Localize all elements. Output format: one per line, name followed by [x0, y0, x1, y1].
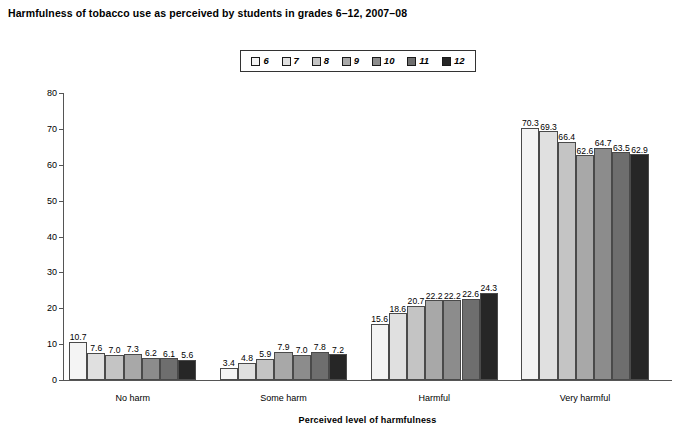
- y-tick-mark: [59, 308, 63, 309]
- bar-value-label: 20.7: [408, 297, 425, 306]
- bar-value-label: 10.7: [70, 333, 87, 342]
- bar-value-label: 7.0: [109, 346, 121, 355]
- bar-value-label: 22.6: [462, 290, 479, 299]
- legend-item-grade-10[interactable]: 10: [372, 56, 395, 66]
- bar-some-harm-grade-8[interactable]: 5.9: [256, 359, 274, 380]
- bar-very-harmful-grade-11[interactable]: 63.5: [612, 152, 630, 380]
- bar-value-label: 70.3: [522, 119, 539, 128]
- legend-item-grade-11[interactable]: 11: [407, 56, 429, 66]
- chart-legend: 6789101112: [240, 50, 476, 72]
- legend-label-grade-9: 9: [354, 56, 359, 66]
- bar-some-harm-grade-9[interactable]: 7.9: [274, 352, 292, 380]
- bar-value-label: 63.5: [613, 144, 630, 153]
- y-tick-label: 50: [47, 196, 57, 206]
- category-label-harmful: Harmful: [418, 393, 450, 403]
- legend-label-grade-6: 6: [263, 56, 268, 66]
- legend-item-grade-7[interactable]: 7: [282, 56, 299, 66]
- bar-no-harm-grade-9[interactable]: 7.3: [124, 354, 142, 380]
- bar-some-harm-grade-12[interactable]: 7.2: [329, 354, 347, 380]
- category-label-some-harm: Some harm: [260, 393, 307, 403]
- y-axis-line: [63, 93, 64, 380]
- bar-harmful-grade-7[interactable]: 18.6: [389, 313, 407, 380]
- bar-harmful-grade-8[interactable]: 20.7: [407, 306, 425, 380]
- bar-value-label: 62.6: [577, 147, 594, 156]
- y-tick-mark: [59, 93, 63, 94]
- bar-harmful-grade-9[interactable]: 22.2: [425, 300, 443, 380]
- y-tick-mark: [59, 237, 63, 238]
- bar-value-label: 24.3: [480, 284, 497, 293]
- bar-value-label: 22.2: [426, 292, 443, 301]
- bar-no-harm-grade-11[interactable]: 6.1: [160, 358, 178, 380]
- bar-value-label: 7.0: [296, 346, 308, 355]
- legend-item-grade-12[interactable]: 12: [442, 56, 465, 66]
- bar-value-label: 7.3: [127, 345, 139, 354]
- legend-swatch-grade-12: [442, 57, 451, 66]
- bar-value-label: 6.2: [145, 349, 157, 358]
- bar-value-label: 7.2: [332, 346, 344, 355]
- y-tick-label: 10: [47, 339, 57, 349]
- bar-some-harm-grade-6[interactable]: 3.4: [220, 368, 238, 380]
- bar-value-label: 64.7: [595, 139, 612, 148]
- bar-harmful-grade-11[interactable]: 22.6: [462, 299, 480, 380]
- bar-no-harm-grade-8[interactable]: 7.0: [105, 355, 123, 380]
- bar-no-harm-grade-6[interactable]: 10.7: [69, 342, 87, 380]
- bar-no-harm-grade-7[interactable]: 7.6: [87, 353, 105, 380]
- bar-some-harm-grade-7[interactable]: 4.8: [238, 363, 256, 380]
- legend-label-grade-8: 8: [324, 56, 329, 66]
- y-tick-mark: [59, 272, 63, 273]
- bar-harmful-grade-12[interactable]: 24.3: [480, 293, 498, 380]
- bar-value-label: 7.6: [90, 344, 102, 353]
- bar-value-label: 6.1: [163, 350, 175, 359]
- bar-no-harm-grade-12[interactable]: 5.6: [178, 360, 196, 380]
- bar-value-label: 3.4: [223, 359, 235, 368]
- y-tick-label: 30: [47, 267, 57, 277]
- legend-label-grade-12: 12: [454, 56, 465, 66]
- category-label-very-harmful: Very harmful: [560, 393, 611, 403]
- legend-swatch-grade-9: [342, 57, 351, 66]
- y-tick-mark: [59, 201, 63, 202]
- legend-swatch-grade-7: [282, 57, 291, 66]
- bar-group-no-harm: 10.77.67.07.36.26.15.6: [69, 93, 196, 380]
- bar-harmful-grade-10[interactable]: 22.2: [443, 300, 461, 380]
- y-tick-label: 80: [47, 88, 57, 98]
- legend-item-grade-8[interactable]: 8: [312, 56, 329, 66]
- bar-value-label: 69.3: [540, 123, 557, 132]
- legend-swatch-grade-11: [407, 57, 416, 66]
- category-label-no-harm: No harm: [115, 393, 150, 403]
- bar-very-harmful-grade-7[interactable]: 69.3: [539, 131, 557, 380]
- bar-value-label: 4.8: [241, 354, 253, 363]
- bar-harmful-grade-6[interactable]: 15.6: [371, 324, 389, 380]
- bar-very-harmful-grade-9[interactable]: 62.6: [576, 155, 594, 380]
- legend-label-grade-10: 10: [384, 56, 395, 66]
- bar-no-harm-grade-10[interactable]: 6.2: [142, 358, 160, 380]
- y-tick-label: 60: [47, 160, 57, 170]
- legend-swatch-grade-6: [251, 57, 260, 66]
- legend-item-grade-6[interactable]: 6: [251, 56, 268, 66]
- bar-very-harmful-grade-6[interactable]: 70.3: [521, 128, 539, 380]
- chart-title: Harmfulness of tobacco use as perceived …: [8, 7, 407, 19]
- bar-some-harm-grade-11[interactable]: 7.8: [311, 352, 329, 380]
- y-tick-mark: [59, 380, 63, 381]
- y-tick-mark: [59, 129, 63, 130]
- bar-value-label: 7.9: [277, 343, 289, 352]
- bar-very-harmful-grade-10[interactable]: 64.7: [594, 148, 612, 380]
- legend-label-grade-7: 7: [294, 56, 299, 66]
- legend-label-grade-11: 11: [419, 56, 429, 66]
- x-axis-line: [63, 380, 672, 381]
- bar-very-harmful-grade-8[interactable]: 66.4: [558, 142, 576, 380]
- bar-value-label: 5.6: [181, 351, 193, 360]
- bar-value-label: 62.9: [631, 146, 648, 155]
- y-tick-label: 0: [52, 375, 57, 385]
- bar-group-very-harmful: 70.369.366.462.664.763.562.9: [521, 93, 648, 380]
- y-tick-label: 20: [47, 303, 57, 313]
- bar-value-label: 66.4: [558, 133, 575, 142]
- bar-very-harmful-grade-12[interactable]: 62.9: [630, 154, 648, 380]
- bar-some-harm-grade-10[interactable]: 7.0: [293, 355, 311, 380]
- y-tick-label: 40: [47, 232, 57, 242]
- bar-group-some-harm: 3.44.85.97.97.07.87.2: [220, 93, 347, 380]
- legend-swatch-grade-10: [372, 57, 381, 66]
- bar-value-label: 18.6: [389, 305, 406, 314]
- plot-area: Perceived level of harmfulness 010203040…: [63, 93, 672, 380]
- legend-item-grade-9[interactable]: 9: [342, 56, 359, 66]
- bar-value-label: 22.2: [444, 292, 461, 301]
